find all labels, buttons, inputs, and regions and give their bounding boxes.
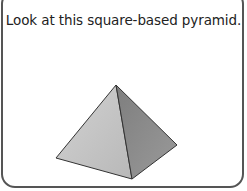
pyramid-figure — [0, 0, 247, 191]
